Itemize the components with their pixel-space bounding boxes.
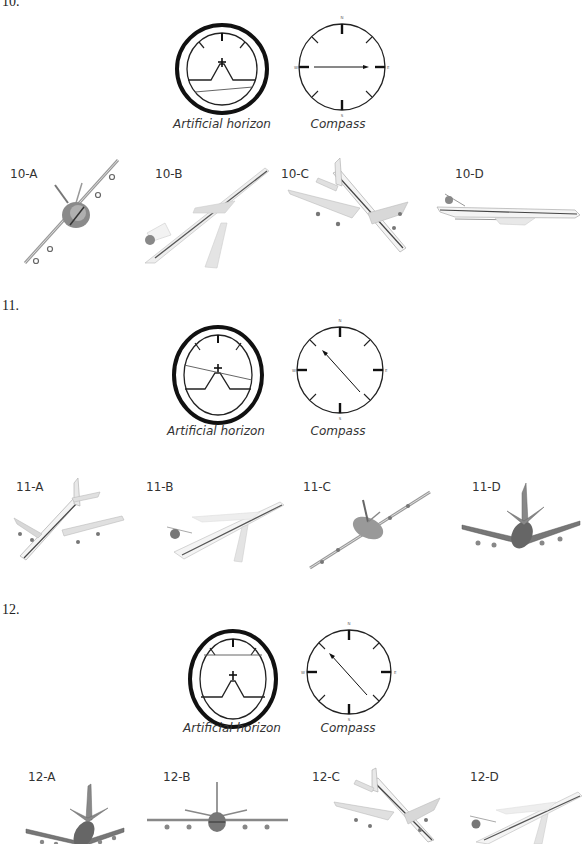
airplane-icon[interactable] xyxy=(145,780,290,835)
compass-icon: N S W E xyxy=(294,14,390,118)
compass-icon: N S W E xyxy=(301,619,397,723)
artificial-horizon-label: Artificial horizon xyxy=(167,424,265,438)
airplane-icon[interactable] xyxy=(20,155,120,270)
option-label-10d[interactable]: 10-D xyxy=(455,167,484,181)
artificial-horizon-icon xyxy=(186,627,280,731)
artificial-horizon-icon xyxy=(173,22,271,116)
svg-text:S: S xyxy=(339,416,342,421)
svg-text:E: E xyxy=(387,65,390,70)
option-label-12a[interactable]: 12-A xyxy=(28,770,56,784)
airplane-icon[interactable] xyxy=(308,490,433,570)
airplane-icon[interactable] xyxy=(435,192,580,237)
airplane-icon[interactable] xyxy=(12,478,127,563)
svg-text:E: E xyxy=(394,670,397,675)
svg-text:N: N xyxy=(348,621,351,626)
airplane-icon[interactable] xyxy=(162,497,287,562)
artificial-horizon-icon xyxy=(170,323,266,427)
airplane-icon[interactable] xyxy=(288,158,413,256)
airplane-icon[interactable] xyxy=(135,163,275,268)
svg-text:W: W xyxy=(292,368,296,373)
svg-text:N: N xyxy=(341,15,344,20)
compass-label: Compass xyxy=(321,721,376,735)
artificial-horizon-label: Artificial horizon xyxy=(173,117,271,131)
option-label-11b[interactable]: 11-B xyxy=(146,480,173,494)
artificial-horizon-label: Artificial horizon xyxy=(183,721,281,735)
question-number: 12. xyxy=(2,602,20,618)
compass-label: Compass xyxy=(311,117,366,131)
question-number: 10. xyxy=(2,0,20,10)
airplane-icon[interactable] xyxy=(334,768,444,842)
option-label-12d[interactable]: 12-D xyxy=(470,770,499,784)
airplane-icon[interactable] xyxy=(26,784,126,844)
airplane-icon[interactable] xyxy=(462,483,582,558)
compass-icon: N S W E xyxy=(292,317,388,421)
airplane-icon[interactable] xyxy=(466,788,583,844)
compass-label: Compass xyxy=(311,424,366,438)
svg-text:N: N xyxy=(339,318,342,323)
svg-text:E: E xyxy=(385,368,388,373)
svg-text:W: W xyxy=(294,65,298,70)
question-number: 11. xyxy=(2,298,19,314)
svg-text:W: W xyxy=(301,670,305,675)
